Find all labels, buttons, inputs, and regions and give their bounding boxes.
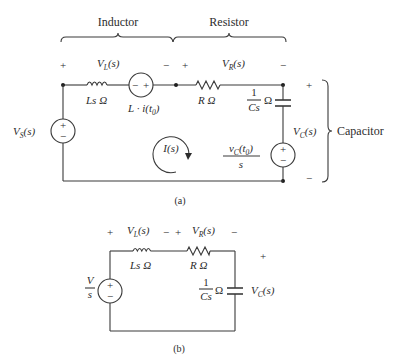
- resistor-impedance-label: R Ω: [189, 259, 207, 271]
- capacitor-ic-label: vC(t0) s: [223, 142, 260, 170]
- resistor-voltage-label: VR(s): [222, 57, 245, 72]
- arrowhead-icon: [185, 153, 192, 160]
- inductor-voltage-label: VL(s): [127, 224, 150, 239]
- vl-plus: +: [60, 59, 66, 71]
- vr-plus: +: [182, 59, 188, 71]
- source-voltage-label: VS(s): [13, 125, 35, 140]
- loop-current-label: I(s): [162, 142, 179, 155]
- capacitor-voltage-label: VC(s): [251, 284, 275, 299]
- ohm-unit: Ω: [215, 284, 223, 296]
- source-plus-sign: +: [143, 79, 149, 91]
- vr-minus: −: [231, 226, 237, 238]
- inductor-coil: [87, 82, 107, 85]
- inductor-impedance-label: Ls Ω: [85, 94, 107, 106]
- circuit-a: Inductor Resistor − + + − + −: [13, 15, 384, 207]
- vc-plus: +: [260, 250, 266, 262]
- fraction-denominator: s: [88, 288, 92, 300]
- fraction-denominator: Cs: [200, 290, 212, 302]
- source-minus-sign: −: [280, 154, 286, 166]
- inductor-impedance-label: Ls Ω: [129, 259, 151, 271]
- fraction-numerator: vC(t0): [229, 142, 253, 157]
- circuit-figure: Inductor Resistor − + + − + −: [0, 0, 405, 361]
- inductor-voltage-label: VL(s): [97, 57, 120, 72]
- source-minus-sign: −: [107, 290, 113, 302]
- capacitor-impedance-label: 1 Cs Ω: [199, 276, 223, 302]
- vc-plus: +: [306, 79, 312, 91]
- fraction-numerator: 1: [251, 86, 257, 98]
- vr-plus: +: [175, 226, 181, 238]
- capacitor-group-label: Capacitor: [337, 124, 384, 138]
- vl-minus: −: [163, 59, 169, 71]
- capacitor-impedance-label: 1 Cs Ω: [247, 86, 272, 113]
- inductor-group-label: Inductor: [98, 15, 139, 29]
- vc-minus: −: [306, 172, 312, 184]
- source-minus-sign: −: [132, 79, 138, 91]
- resistor-group-label: Resistor: [209, 15, 248, 29]
- capacitor-voltage-label: VC(s): [293, 125, 317, 140]
- resistor-voltage-label: VR(s): [192, 224, 215, 239]
- ohm-unit: Ω: [264, 94, 272, 106]
- fraction-numerator: 1: [203, 276, 209, 288]
- resistor-impedance-label: R Ω: [197, 94, 215, 106]
- inductor-ic-label: L · i(t0): [127, 102, 160, 117]
- vl-plus: +: [107, 226, 113, 238]
- fraction-denominator: Cs: [248, 101, 260, 113]
- source-label: V s: [85, 274, 95, 300]
- resistor-brace: [173, 33, 286, 42]
- resistor-zigzag: [187, 247, 210, 255]
- resistor-zigzag: [196, 81, 220, 89]
- caption-a: (a): [174, 195, 185, 207]
- inductor-coil: [133, 249, 151, 252]
- caption-b: (b): [173, 343, 185, 355]
- fraction-numerator: V: [87, 274, 95, 286]
- capacitor-brace: [322, 80, 332, 182]
- vr-minus: −: [280, 59, 286, 71]
- circuit-b: + VL(s) − + VR(s) − + + − V s Ls Ω R Ω: [85, 224, 275, 355]
- fraction-denominator: s: [239, 158, 243, 170]
- inductor-brace: [61, 33, 173, 42]
- node: [174, 83, 178, 87]
- vl-minus: −: [163, 226, 169, 238]
- source-minus-sign: −: [60, 130, 66, 142]
